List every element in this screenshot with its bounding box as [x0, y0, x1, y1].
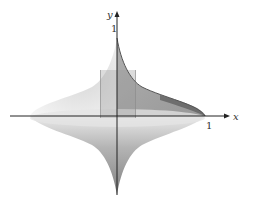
- y-axis-arrow-icon: [115, 11, 120, 17]
- y-tick-label: 1: [111, 23, 117, 34]
- y-axis-label: y: [106, 9, 113, 20]
- x-tick-label: 1: [206, 120, 212, 131]
- x-axis-arrow-icon: [224, 114, 230, 119]
- solid-of-revolution-figure: y 1 1 x: [0, 0, 268, 211]
- cylindrical-shell: [100, 70, 136, 118]
- x-axis-label: x: [233, 111, 239, 122]
